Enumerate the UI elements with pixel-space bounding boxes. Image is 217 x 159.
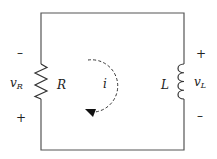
- resistor-bottom-sign: +: [16, 111, 26, 125]
- inductor-label: L: [160, 78, 169, 92]
- inductor-symbol: [178, 64, 184, 99]
- resistor-voltage-label: vR: [10, 76, 23, 91]
- wire-left-top: [41, 13, 184, 64]
- inductor-top-sign: +: [196, 47, 206, 61]
- current-label: i: [103, 77, 107, 91]
- resistor-top-sign: –: [17, 46, 23, 60]
- inductor-voltage-label: vL: [194, 75, 206, 90]
- current-arrowhead-icon: [85, 109, 96, 117]
- rl-circuit-diagram: – + vR R i L + – vL: [0, 0, 217, 159]
- inductor-bottom-sign: –: [197, 109, 203, 123]
- resistor-label: R: [56, 78, 66, 92]
- resistor-symbol: [35, 64, 47, 99]
- wire-left-bottom: [41, 99, 184, 150]
